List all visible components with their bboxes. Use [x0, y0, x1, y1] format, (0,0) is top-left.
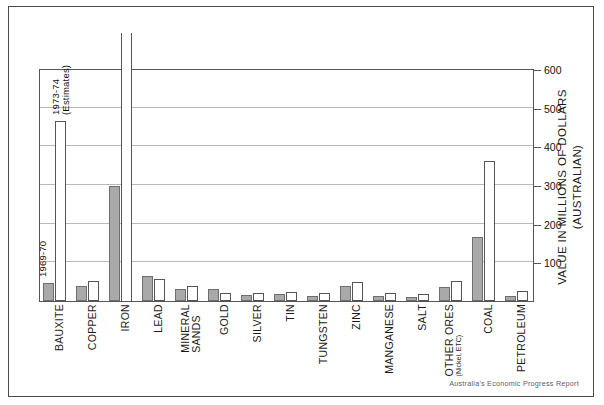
bar-1973-74	[55, 121, 67, 301]
x-axis-label-text: MINERALSANDS	[180, 304, 202, 353]
bar-1973-74	[418, 294, 430, 301]
legend-label-1969-70: 1969-70	[37, 241, 48, 277]
x-axis-label-text: ZINC	[351, 304, 362, 330]
y-tick-label-600: 600	[544, 65, 562, 75]
bar-1969-70	[340, 286, 352, 301]
bar-series-container	[40, 70, 533, 301]
x-axis-label-text: SILVER	[252, 304, 263, 342]
bar-group	[469, 70, 502, 301]
bar-1969-70	[109, 186, 121, 301]
bar-1969-70	[142, 276, 154, 301]
bar-group	[271, 70, 304, 301]
bar-group	[172, 70, 205, 301]
bar-1969-70	[43, 283, 55, 301]
legend-label-estimates: (Estimates)	[60, 65, 71, 115]
x-axis-label-text: TIN	[285, 304, 296, 322]
bar-1969-70	[208, 289, 220, 301]
bar-1973-74	[286, 292, 298, 301]
bar-group	[238, 70, 271, 301]
x-axis-label-text: BAUXITE	[54, 304, 65, 351]
bar-1973-74	[121, 33, 133, 301]
bar-group	[73, 70, 106, 301]
bar-1973-74	[220, 293, 232, 302]
x-axis-label-text: COAL	[483, 304, 494, 334]
bar-1973-74	[187, 286, 199, 301]
plot-area: 1969-70 1973-74 (Estimates)	[39, 70, 534, 302]
x-axis-label-text: SALT	[417, 304, 428, 331]
bar-1973-74	[319, 293, 331, 301]
bar-group	[304, 70, 337, 301]
y-tick-500	[534, 109, 541, 110]
x-axis-label-text: COPPER	[87, 304, 98, 350]
bar-group	[337, 70, 370, 301]
y-tick-100	[534, 263, 541, 264]
bar-1969-70	[472, 237, 484, 301]
x-axis-label-text: OTHER ORES(Nickel, ETC)	[444, 304, 463, 376]
chart-frame: 1969-70 1973-74 (Estimates) 100200300400…	[8, 6, 594, 397]
x-axis-labels: BAUXITECOPPERIRONLEADMINERALSANDSGOLDSIL…	[39, 304, 534, 382]
bar-group	[403, 70, 436, 301]
y-tick-300	[534, 186, 541, 187]
bar-1969-70	[373, 296, 385, 301]
bar-1969-70	[274, 294, 286, 301]
bar-1973-74	[451, 281, 463, 301]
bar-group	[436, 70, 469, 301]
bar-1973-74	[352, 282, 364, 301]
source-credit: Australia's Economic Progress Report	[449, 379, 579, 388]
bar-group	[106, 70, 139, 301]
bar-group	[502, 70, 535, 301]
bar-1969-70	[241, 295, 253, 301]
x-axis-label-text: IRON	[120, 304, 131, 331]
y-tick-600	[534, 70, 541, 71]
bar-1973-74	[253, 293, 265, 302]
bar-1973-74	[385, 293, 397, 301]
bar-1969-70	[439, 287, 451, 301]
bar-group	[205, 70, 238, 301]
y-tick-400	[534, 147, 541, 148]
x-axis-label-text: TUNGSTEN	[318, 304, 329, 364]
y-axis-title: VALUE IN MILLIONS OF DOLLARS(AUSTRALIAN)	[560, 67, 580, 307]
bar-1969-70	[406, 297, 418, 301]
y-axis-title-text: VALUE IN MILLIONS OF DOLLARS(AUSTRALIAN)	[555, 89, 585, 285]
x-axis-label-text: MANGANESE	[384, 304, 395, 374]
x-axis-label-text: GOLD	[219, 304, 230, 335]
x-axis-label-text: LEAD	[153, 304, 164, 333]
bar-group	[139, 70, 172, 301]
bar-1969-70	[307, 296, 319, 301]
bar-1973-74	[154, 279, 166, 301]
bar-group	[370, 70, 403, 301]
bar-1973-74	[88, 281, 100, 301]
y-tick-200	[534, 225, 541, 226]
bar-1969-70	[505, 296, 517, 301]
x-axis-label-text: PETROLEUM	[516, 304, 527, 372]
bar-1969-70	[76, 286, 88, 301]
bar-1973-74	[484, 161, 496, 301]
bar-1973-74	[517, 291, 529, 301]
bar-1969-70	[175, 289, 187, 301]
